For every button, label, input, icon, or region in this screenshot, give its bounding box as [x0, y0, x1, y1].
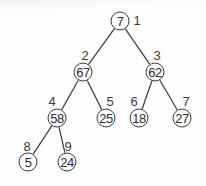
- node-index-label-4: 4: [48, 94, 55, 109]
- tree-edge: [125, 29, 149, 64]
- tree-node-9: 24: [58, 153, 77, 172]
- tree-node-5: 25: [97, 109, 116, 128]
- tree-node-6: 18: [130, 109, 149, 128]
- node-index-label-8: 8: [23, 139, 30, 154]
- tree-edge: [33, 126, 52, 154]
- node-index-label-6: 6: [130, 94, 137, 109]
- heap-tree-diagram: 7 1 67 2 62 3 58 4 25 5 18 6 27 7 5 8 24…: [0, 0, 206, 186]
- tree-edge: [62, 80, 79, 109]
- node-index-label-2: 2: [81, 48, 88, 63]
- tree-node-2: 67: [74, 63, 93, 82]
- tree-node-3: 62: [146, 63, 165, 82]
- node-index-label-7: 7: [182, 94, 189, 109]
- node-index-label-3: 3: [153, 48, 160, 63]
- tree-node-4: 58: [48, 109, 67, 128]
- tree-edge: [142, 81, 152, 109]
- tree-edge: [89, 29, 115, 65]
- tree-edge: [160, 80, 177, 110]
- node-index-label-5: 5: [106, 94, 113, 109]
- tree-edge: [87, 80, 102, 109]
- tree-node-8: 5: [19, 153, 38, 172]
- node-index-label-1: 1: [133, 13, 140, 28]
- node-index-label-9: 9: [64, 139, 71, 154]
- tree-node-1: 7: [111, 12, 130, 31]
- tree-node-7: 27: [173, 109, 192, 128]
